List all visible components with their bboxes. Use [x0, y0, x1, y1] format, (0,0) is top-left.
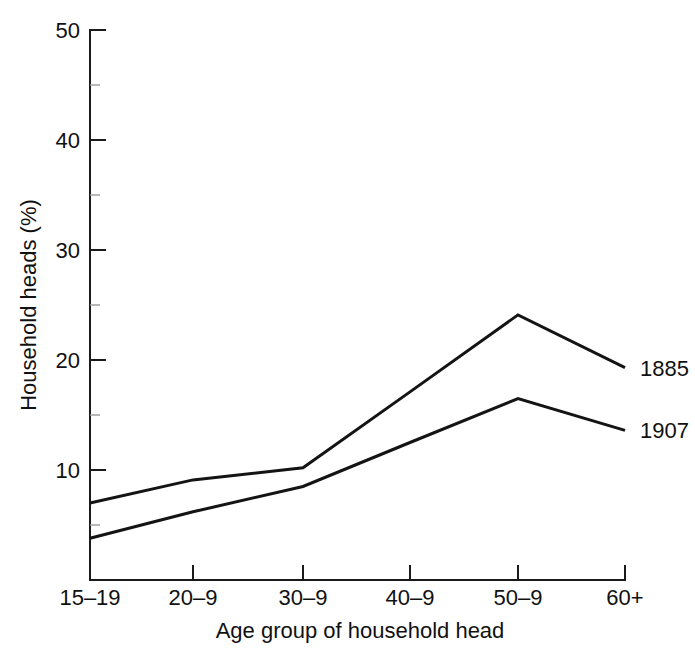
x-tick-label-5: 60+ — [606, 585, 643, 610]
x-tick-label-4: 50–9 — [494, 585, 543, 610]
x-tick-label-3: 40–9 — [386, 585, 435, 610]
figure-container: 50 40 30 20 10 15–19 20–9 30–9 40–9 50–9… — [0, 0, 695, 659]
y-tick-label-20: 20 — [56, 348, 80, 373]
y-tick-label-50: 50 — [56, 18, 80, 43]
series-line-1907 — [90, 399, 625, 539]
x-axis-title: Age group of household head — [216, 618, 505, 643]
x-tick-label-2: 30–9 — [279, 585, 328, 610]
y-tick-label-10: 10 — [56, 458, 80, 483]
y-tick-label-30: 30 — [56, 238, 80, 263]
series-line-1885 — [90, 315, 625, 503]
y-axis-title: Household heads (%) — [16, 199, 41, 411]
x-tick-label-0: 15–19 — [59, 585, 120, 610]
x-tick-label-1: 20–9 — [169, 585, 218, 610]
caption-strip — [0, 645, 695, 659]
y-tick-label-40: 40 — [56, 128, 80, 153]
line-chart: 50 40 30 20 10 15–19 20–9 30–9 40–9 50–9… — [0, 0, 695, 659]
series-label-1885: 1885 — [640, 356, 689, 381]
series-label-1907: 1907 — [640, 418, 689, 443]
